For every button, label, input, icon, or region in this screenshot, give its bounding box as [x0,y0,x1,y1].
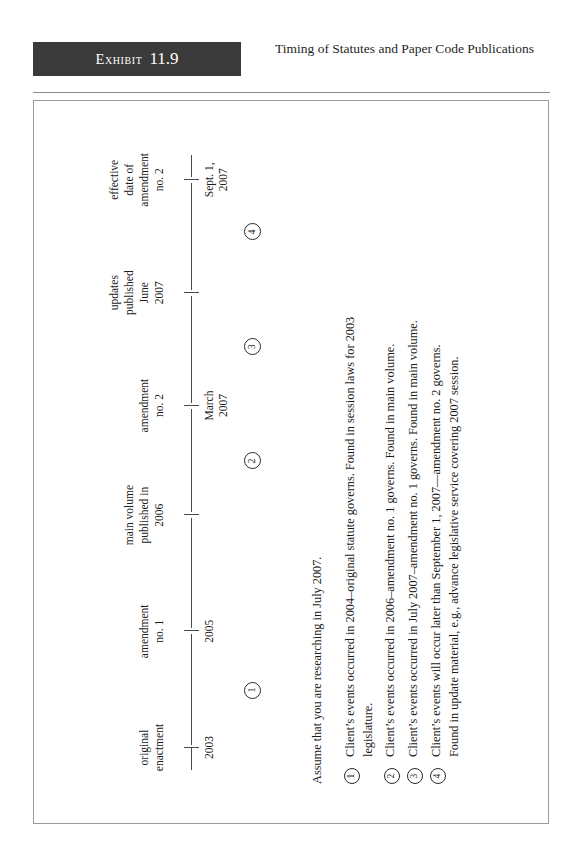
timeline-axis-segment [191,296,192,403]
timeline-axis-segment [191,634,192,744]
timeline-event-label-line: June [137,245,152,341]
timeline-marker-2: 2 [244,453,261,470]
timeline-event-label-line: published [122,245,137,341]
timeline-event-date-line: 2007 [216,371,230,441]
timeline-event-label-line: 2006 [152,467,167,563]
legend-item-line: Client’s events occurred in July 2007–am… [406,320,420,757]
timeline-event-date-line: 2003 [202,713,216,783]
legend-block: Assume that you are researching in July … [309,134,469,784]
timeline-event-date: 2005 [202,596,216,666]
timeline-event-date-line: 2005 [202,596,216,666]
exhibit-title: Timing of Statutes and Paper Code Public… [275,40,555,58]
exhibit-number: 11.9 [149,49,178,69]
timeline-event-label-line: no. 1 [152,583,167,679]
timeline-tick [184,179,199,180]
timeline-event-label-line: no. 2 [152,132,167,228]
timeline-event-label-line: main volume [122,467,137,563]
legend-item-text: Client’s events occurred in 2004–origina… [342,134,378,757]
legend-item-line: Client’s events will occur later than Se… [429,344,443,757]
timeline-tick [184,405,199,406]
timeline-marker-1: 1 [244,682,261,699]
timeline-event-label-line: no. 2 [152,358,167,454]
timeline-event-label-line: 2007 [152,245,167,341]
legend-item-line: Found in update material, e.g., advance … [446,134,464,757]
timeline-tick [184,514,199,515]
timeline-chart: originalenactment2003amendmentno. 12005m… [41,112,291,812]
legend-item: 1Client’s events occurred in 2004–origin… [342,134,378,784]
figure-container: originalenactment2003amendmentno. 12005m… [33,100,549,824]
timeline-axis-segment [191,518,192,628]
timeline-event-label: main volumepublished in2006 [122,467,167,563]
timeline-tick [184,292,199,293]
legend-item-text: Client’s events occurred in 2006–amendme… [382,134,400,757]
legend-item-line: Client’s events occurred in 2006–amendme… [383,344,397,757]
legend-items: 1Client’s events occurred in 2004–origin… [342,134,464,784]
exhibit-header: Exhibit 11.9 Timing of Statutes and Pape… [33,42,548,86]
timeline-event-date: Sept. 1,2007 [202,145,231,215]
legend-item: 3Client’s events occurred in July 2007–a… [405,134,423,784]
timeline-event-label-line: amendment [137,132,152,228]
timeline-event-label: amendmentno. 1 [137,583,167,679]
legend-item: 2Client’s events occurred in 2006–amendm… [382,134,400,784]
legend-marker-4: 4 [430,768,446,784]
exhibit-label: Exhibit [95,51,142,68]
timeline-event-label-line: updates [107,245,122,341]
timeline-axis-segment [191,748,192,770]
timeline-event-label-line: enactment [152,700,167,796]
timeline-event-date-line: 2007 [216,145,230,215]
timeline-event-label: effectivedate ofamendmentno. 2 [107,132,167,228]
timeline-event-label-line: effective [107,132,122,228]
timeline-event-label-line: published in [137,467,152,563]
timeline-event-label: updatespublishedJune2007 [107,245,167,341]
legend-marker-3: 3 [407,768,423,784]
legend-item-text: Client’s events occurred in July 2007–am… [405,134,423,757]
legend-item-text: Client’s events will occur later than Se… [428,134,464,757]
legend-item-line: Client’s events occurred in 2004–origina… [343,317,357,757]
timeline-event-label: originalenactment [137,700,167,796]
timeline-event-label: amendmentno. 2 [137,358,167,454]
legend-item-line: legislature. [360,134,378,757]
timeline-tick [184,630,199,631]
header-divider [33,92,550,93]
timeline-event-label-line: amendment [137,358,152,454]
timeline-axis-segment [191,155,192,177]
timeline-axis-segment [191,183,192,290]
timeline-marker-3: 3 [244,338,261,355]
legend-intro-text: Assume that you are researching in July … [309,134,327,784]
timeline-event-date-line: Sept. 1, [202,145,216,215]
rotated-figure-canvas: originalenactment2003amendmentno. 12005m… [41,112,541,812]
exhibit-badge: Exhibit 11.9 [33,42,241,76]
legend-marker-2: 2 [384,768,400,784]
timeline-event-label-line: original [137,700,152,796]
timeline-marker-4: 4 [244,223,261,240]
timeline-event-label-line: date of [122,132,137,228]
exhibit-page: Exhibit 11.9 Timing of Statutes and Pape… [0,0,583,845]
legend-marker-1: 1 [344,768,360,784]
timeline-event-label-line: amendment [137,583,152,679]
timeline-event-date-line: March [202,371,216,441]
timeline-event-date: March2007 [202,371,231,441]
timeline-axis-segment [191,409,192,513]
timeline-tick [184,747,199,748]
timeline-event-date: 2003 [202,713,216,783]
legend-item: 4Client’s events will occur later than S… [428,134,464,784]
